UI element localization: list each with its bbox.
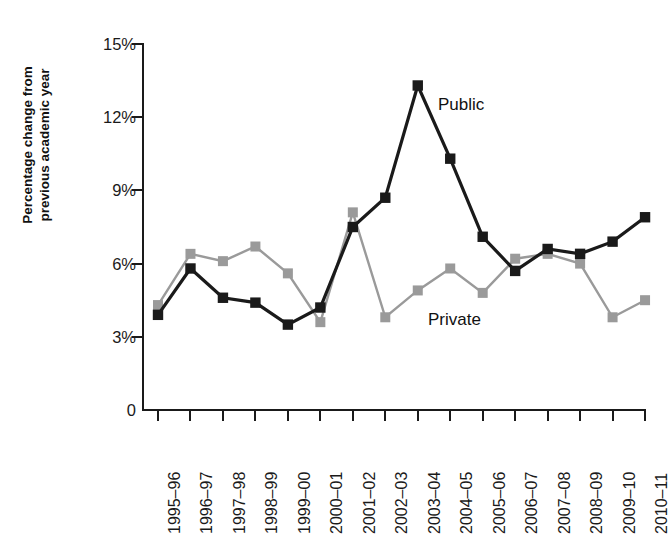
data-point-marker-private <box>315 317 325 327</box>
data-point-marker-private <box>185 249 195 259</box>
data-point-marker-private <box>283 268 293 278</box>
data-point-marker-private <box>608 312 618 322</box>
data-point-marker-public <box>445 153 455 163</box>
data-point-marker-public <box>575 249 585 259</box>
data-point-marker-private <box>380 312 390 322</box>
data-point-marker-private <box>250 242 260 252</box>
data-point-marker-private <box>413 285 423 295</box>
data-point-marker-public <box>542 244 552 254</box>
data-point-marker-public <box>250 297 260 307</box>
data-point-marker-public <box>315 302 325 312</box>
data-point-marker-public <box>478 232 488 242</box>
series-label-private: Private <box>428 310 481 330</box>
data-point-marker-private <box>510 254 520 264</box>
data-point-marker-public <box>607 236 617 246</box>
data-point-marker-public <box>185 263 195 273</box>
data-point-marker-private <box>218 256 228 266</box>
data-point-marker-private <box>348 207 358 217</box>
data-point-marker-private <box>445 263 455 273</box>
data-point-marker-public <box>283 319 293 329</box>
data-point-marker-private <box>575 259 585 269</box>
data-point-marker-public <box>413 80 423 90</box>
data-point-marker-public <box>510 266 520 276</box>
series-line-public <box>158 85 645 324</box>
data-point-marker-public <box>153 310 163 320</box>
data-point-marker-private <box>478 288 488 298</box>
data-point-marker-public <box>380 193 390 203</box>
data-point-marker-public <box>218 293 228 303</box>
series-label-public: Public <box>438 95 484 115</box>
data-point-marker-public <box>348 222 358 232</box>
data-point-marker-public <box>640 212 650 222</box>
series-line-private <box>158 212 645 322</box>
data-point-marker-private <box>640 295 650 305</box>
